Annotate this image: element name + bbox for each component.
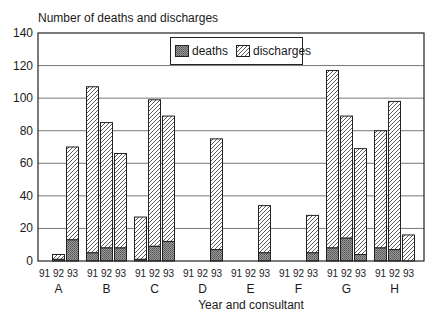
legend-item-deaths: deaths: [175, 44, 228, 58]
bar-deaths: [355, 254, 367, 261]
bar-discharges: [135, 217, 147, 259]
x-tick-year: 93: [115, 268, 127, 279]
x-tick-year: 93: [403, 268, 415, 279]
bar-discharges: [149, 100, 161, 247]
y-tick-label: 60: [20, 156, 34, 170]
x-tick-year: 91: [39, 268, 51, 279]
x-tick-year: 92: [53, 268, 65, 279]
x-axis-ticks: 919293A919293B919293C919293D919293E91929…: [39, 268, 415, 296]
x-tick-year: 92: [197, 268, 209, 279]
x-tick-year: 91: [87, 268, 99, 279]
bar-discharges: [403, 235, 415, 261]
legend-item-discharges: discharges: [236, 44, 311, 58]
deaths-swatch-icon: [175, 45, 189, 57]
bar-discharges: [211, 139, 223, 250]
x-tick-year: 92: [293, 268, 305, 279]
bar-discharges: [259, 206, 271, 253]
y-tick-label: 40: [20, 189, 34, 203]
bar-deaths: [101, 248, 113, 261]
bars: [53, 70, 415, 261]
bar-deaths: [389, 250, 401, 261]
x-tick-year: 91: [279, 268, 291, 279]
x-tick-year: 92: [341, 268, 353, 279]
bar-deaths: [327, 248, 339, 261]
x-tick-year: 92: [101, 268, 113, 279]
bar-discharges: [115, 154, 127, 248]
bar-deaths: [341, 238, 353, 261]
bar-discharges: [163, 116, 175, 241]
bar-deaths: [87, 253, 99, 261]
x-tick-year: 91: [375, 268, 387, 279]
x-tick-year: 93: [355, 268, 367, 279]
bar-discharges: [101, 123, 113, 248]
y-tick-label: 140: [13, 26, 33, 40]
x-tick-year: 93: [259, 268, 271, 279]
x-group-label: E: [246, 282, 254, 296]
y-axis-ticks: 020406080100120140: [13, 26, 33, 268]
bar-deaths: [149, 246, 161, 261]
legend-label-deaths: deaths: [192, 44, 228, 58]
legend: deaths discharges: [170, 37, 303, 65]
y-tick-label: 80: [20, 124, 34, 138]
x-group-label: C: [150, 282, 159, 296]
y-tick-label: 20: [20, 221, 34, 235]
bar-discharges: [355, 149, 367, 255]
bar-discharges: [389, 101, 401, 249]
x-tick-year: 91: [231, 268, 243, 279]
discharges-swatch-icon: [236, 45, 250, 57]
chart-title: Number of deaths and discharges: [38, 11, 218, 25]
bar-discharges: [341, 116, 353, 238]
x-tick-year: 92: [245, 268, 257, 279]
legend-label-discharges: discharges: [253, 44, 311, 58]
x-tick-year: 93: [307, 268, 319, 279]
bar-deaths: [115, 248, 127, 261]
x-tick-year: 93: [67, 268, 79, 279]
x-tick-year: 92: [389, 268, 401, 279]
x-group-label: F: [295, 282, 302, 296]
x-axis-label: Year and consultant: [0, 298, 442, 312]
bar-discharges: [327, 70, 339, 248]
y-tick-label: 0: [26, 254, 33, 268]
x-group-label: B: [102, 282, 110, 296]
x-tick-year: 91: [327, 268, 339, 279]
x-group-label: D: [198, 282, 207, 296]
x-group-label: H: [390, 282, 399, 296]
x-tick-year: 91: [183, 268, 195, 279]
bar-discharges: [53, 254, 65, 259]
x-tick-year: 93: [163, 268, 175, 279]
bar-discharges: [67, 147, 79, 240]
bar-deaths: [307, 253, 319, 261]
bar-deaths: [259, 253, 271, 261]
bar-deaths: [67, 240, 79, 261]
bar-deaths: [163, 241, 175, 261]
bar-discharges: [375, 131, 387, 248]
bar-discharges: [87, 87, 99, 253]
bar-deaths: [375, 248, 387, 261]
x-tick-year: 93: [211, 268, 223, 279]
x-group-label: A: [54, 282, 62, 296]
bar-discharges: [307, 215, 319, 252]
x-tick-year: 92: [149, 268, 161, 279]
x-group-label: G: [342, 282, 351, 296]
y-tick-label: 100: [13, 91, 33, 105]
y-tick-label: 120: [13, 59, 33, 73]
bar-deaths: [211, 250, 223, 261]
x-tick-year: 91: [135, 268, 147, 279]
